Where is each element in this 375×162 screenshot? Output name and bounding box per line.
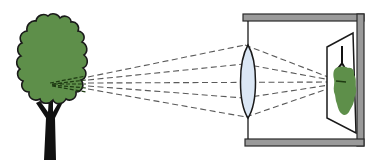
tree-trunk	[36, 96, 63, 160]
light-rays	[88, 45, 340, 117]
ray-1b	[245, 45, 336, 80]
ray-3	[88, 82, 340, 83]
optics-diagram	[0, 0, 375, 162]
convex-lens	[241, 45, 256, 118]
ray-2b	[244, 64, 336, 81]
tree-object	[17, 14, 88, 160]
ray-5	[88, 89, 246, 117]
ray-4	[88, 86, 244, 98]
